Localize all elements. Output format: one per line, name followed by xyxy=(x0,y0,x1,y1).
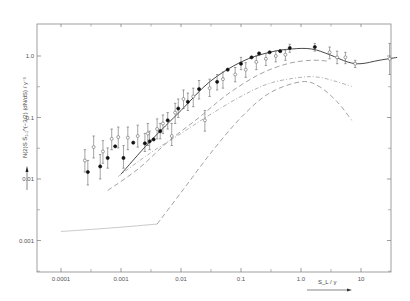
filled-data-point xyxy=(86,170,89,173)
y-axis-label-text: N(2)S S̄₁,₁^(−3/2) (dN/dS) / y⁻¹ xyxy=(22,77,28,158)
open-data-point xyxy=(234,73,237,76)
filled-data-point xyxy=(166,119,169,122)
filled-data-point xyxy=(159,130,162,133)
open-data-point xyxy=(284,53,287,56)
filled-data-point xyxy=(288,46,291,49)
curve-long-dash xyxy=(108,60,330,190)
x-tick-label: 0.01 xyxy=(175,276,187,282)
open-data-point xyxy=(328,51,331,54)
x-axis-label-text: S_L / y xyxy=(318,279,336,285)
filled-data-point xyxy=(99,165,102,168)
open-data-point xyxy=(221,78,224,81)
curve-dash-dot xyxy=(118,77,351,177)
open-data-point xyxy=(174,111,177,114)
filled-data-point xyxy=(226,68,229,71)
open-data-point xyxy=(83,159,86,162)
filled-data-point xyxy=(177,107,180,110)
filled-data-point xyxy=(132,141,135,144)
filled-data-point xyxy=(250,56,253,59)
open-data-point xyxy=(264,57,267,60)
open-data-point xyxy=(336,56,339,59)
plot-frame xyxy=(37,24,391,272)
filled-data-point xyxy=(106,156,109,159)
open-data-point xyxy=(161,122,164,125)
x-tick-label: 0.001 xyxy=(113,276,129,282)
y-tick-label: 0.01 xyxy=(22,176,34,182)
filled-data-point xyxy=(268,51,271,54)
open-data-point xyxy=(244,68,247,71)
filled-data-point xyxy=(114,145,117,148)
y-tick-label: 1.0 xyxy=(26,53,35,59)
x-tick-label: 0.0001 xyxy=(52,276,71,282)
curve-dashed-lower xyxy=(157,82,352,225)
open-data-point xyxy=(110,137,113,140)
filled-data-point xyxy=(279,50,282,53)
open-data-point xyxy=(255,60,258,63)
log-log-chart: 0.00010.0010.010.11.010 1.00.10.010.001 … xyxy=(0,0,410,301)
curve-faint-baseline xyxy=(61,224,157,231)
open-data-point xyxy=(192,95,195,98)
open-data-point xyxy=(101,150,104,153)
open-data-point xyxy=(182,97,185,100)
filled-data-point xyxy=(313,45,316,48)
x-tick-label: 1.0 xyxy=(297,276,306,282)
filled-data-point xyxy=(257,52,260,55)
open-data-point xyxy=(136,135,139,138)
x-axis-ticks: 0.00010.0010.010.11.010 xyxy=(52,24,365,282)
open-data-point xyxy=(344,56,347,59)
open-data-point xyxy=(170,135,173,138)
open-data-point xyxy=(156,128,159,131)
open-data-point xyxy=(354,62,357,65)
open-data-point xyxy=(274,55,277,58)
filled-data-point xyxy=(148,140,151,143)
open-data-point xyxy=(146,132,149,135)
filled-data-point xyxy=(143,142,146,145)
filled-data-point xyxy=(122,156,125,159)
filled-data-point xyxy=(197,87,200,90)
open-data-point xyxy=(388,57,391,60)
filled-data-point xyxy=(152,138,155,141)
y-tick-label: 0.001 xyxy=(19,238,35,244)
filled-data-point xyxy=(186,100,189,103)
open-data-point xyxy=(126,136,129,139)
y-axis-label: N(2)S S̄₁,₁^(−3/2) (dN/dS) / y⁻¹ xyxy=(22,77,28,158)
x-axis-label: S_L / y xyxy=(307,279,352,292)
x-tick-label: 10 xyxy=(358,276,365,282)
open-data-point xyxy=(92,146,95,149)
open-data-point xyxy=(203,119,206,122)
filled-data-point xyxy=(216,80,219,83)
open-data-point xyxy=(117,136,120,139)
open-data-point xyxy=(208,87,211,90)
x-tick-label: 0.1 xyxy=(237,276,246,282)
filled-data-point xyxy=(239,62,242,65)
